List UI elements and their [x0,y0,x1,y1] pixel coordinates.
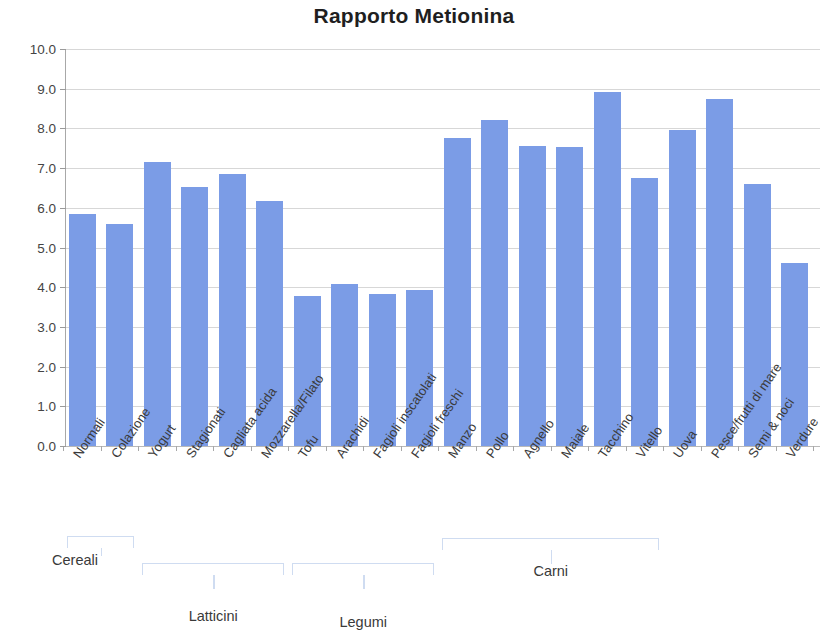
y-axis-tick [60,168,66,169]
category-group-brackets: CerealiLatticiniLegumiCarni [0,0,828,637]
y-axis-tick [60,287,66,288]
y-axis-tick [60,327,66,328]
y-axis-tick [60,367,66,368]
y-axis-tick [60,128,66,129]
group-bracket-stem [213,575,215,589]
group-bracket [142,563,284,575]
y-axis-tick [60,446,66,447]
group-bracket-stem [363,575,365,589]
group-bracket [67,536,134,548]
y-axis-tick [60,208,66,209]
y-axis-tick [60,89,66,90]
y-axis-tick [60,406,66,407]
group-label: Legumi [339,614,387,630]
group-label: Latticini [189,608,238,624]
chart-container: Rapporto Metionina 10.09.08.07.06.05.04.… [0,0,828,637]
group-bracket-stem [101,548,103,556]
group-bracket-stem [551,550,553,564]
group-bracket [292,563,434,575]
group-label: Cereali [52,552,98,568]
group-bracket [442,538,659,550]
y-axis-tick [60,248,66,249]
group-label: Carni [533,563,568,579]
y-axis-tick [60,49,66,50]
